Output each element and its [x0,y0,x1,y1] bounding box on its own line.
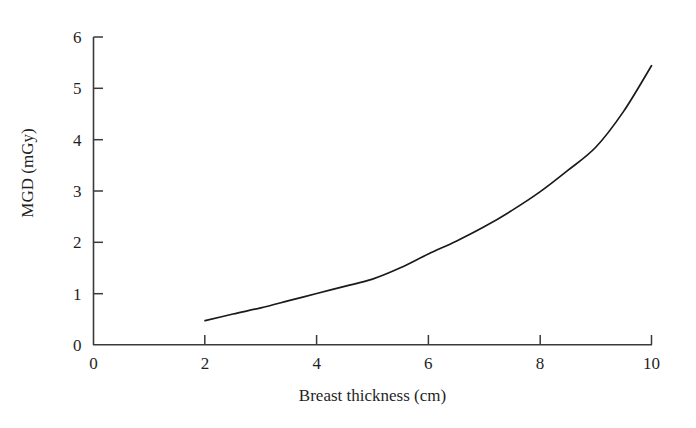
axis-spines [93,37,652,345]
y-tick-label: 0 [73,336,82,355]
x-tick-label: 8 [536,354,545,373]
chart-figure: MGD (mGy) 0123456 0246810 [0,0,696,428]
data-series-group [205,66,651,321]
x-tick-labels: 0246810 [89,354,660,373]
y-tick-label: 2 [73,233,82,252]
y-tick-label: 4 [73,131,82,150]
x-tick-label: 2 [201,354,210,373]
y-tick-labels: 0123456 [73,28,82,355]
x-axis-label-container: Breast thickness (cm) [93,386,652,406]
x-tick-label: 0 [89,354,98,373]
x-tick-label: 10 [643,354,660,373]
y-tick-label: 6 [73,28,82,47]
y-axis-ticks [94,37,104,294]
y-tick-label: 3 [73,182,82,201]
x-axis-ticks [205,335,652,345]
y-axis-label-container: MGD (mGy) [0,0,56,345]
plot-area: 0123456 0246810 [0,0,696,428]
x-axis-label: Breast thickness (cm) [299,386,446,405]
x-tick-label: 6 [424,354,433,373]
y-axis-label: MGD (mGy) [18,128,38,217]
y-tick-label: 5 [73,79,82,98]
y-tick-label: 1 [73,285,82,304]
line-series-mgd [205,66,651,321]
x-tick-label: 4 [312,354,321,373]
